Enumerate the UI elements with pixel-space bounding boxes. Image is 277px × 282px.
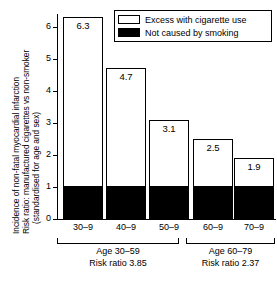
group-age-label: Age 60–79 (186, 246, 275, 258)
legend-item-excess: Excess with cigarette use (118, 13, 268, 26)
bar: 3.1 (149, 120, 189, 219)
group-risk-ratio-label: Risk ratio 2.37 (186, 258, 275, 270)
bar: 4.7 (106, 68, 146, 219)
y-tick-label: 0 (40, 214, 51, 223)
legend-swatch-base-icon (118, 28, 140, 37)
chart-legend: Excess with cigarette use Not caused by … (114, 10, 272, 42)
y-tick-label-box: 1 (40, 182, 51, 191)
y-tick-label-box: 4 (40, 86, 51, 95)
y-tick-mark (53, 187, 57, 188)
bar-value-label: 1.9 (235, 162, 273, 172)
y-tick-label-box: 5 (40, 54, 51, 63)
y-tick-mark (53, 91, 57, 92)
y-tick-label: 5 (40, 54, 51, 63)
bar-value-label: 6.3 (64, 21, 102, 31)
legend-label-base: Not caused by smoking (145, 28, 239, 38)
group-bracket (57, 238, 179, 244)
y-tick-label: 2 (40, 150, 51, 159)
y-tick-label-box: 0 (40, 214, 51, 223)
group-risk-ratio-label: Risk ratio 3.85 (57, 258, 179, 270)
bar-value-label: 3.1 (150, 124, 188, 134)
group-age-label: Age 30–59 (57, 246, 179, 258)
legend-swatch-excess-icon (118, 15, 140, 24)
y-axis-line (57, 14, 58, 220)
chart-figure: Incidence of non-fatal myocardial infarc… (0, 0, 277, 282)
bar-segment-not-caused-by-smoking (150, 186, 188, 218)
y-tick-label: 4 (40, 86, 51, 95)
y-tick-label-box: 3 (40, 118, 51, 127)
bar-segment-not-caused-by-smoking (194, 186, 232, 218)
y-axis-title-line-3: (standardised for age and sex) (31, 112, 41, 224)
y-tick-label-box: 6 (40, 22, 51, 31)
bar-value-label: 4.7 (107, 72, 145, 82)
group-caption: Age 30–59Risk ratio 3.85 (57, 246, 179, 269)
y-tick-label: 6 (40, 22, 51, 31)
y-axis-title-line-2: Risk ratio: manufactured cigarettes vs n… (21, 50, 31, 234)
bar-value-label: 2.5 (194, 143, 232, 153)
y-tick-label: 3 (40, 118, 51, 127)
bar: 1.9 (234, 158, 274, 219)
legend-label-excess: Excess with cigarette use (145, 15, 247, 25)
bar: 6.3 (63, 17, 103, 219)
y-tick-mark (53, 155, 57, 156)
group-caption: Age 60–79Risk ratio 2.37 (186, 246, 275, 269)
bar-segment-not-caused-by-smoking (64, 186, 102, 218)
x-tick-label: 70–9 (228, 222, 277, 233)
group-bracket (186, 238, 275, 244)
y-tick-label: 1 (40, 182, 51, 191)
legend-item-base: Not caused by smoking (118, 26, 268, 39)
bar-segment-not-caused-by-smoking (107, 186, 145, 218)
y-tick-mark (53, 219, 57, 220)
y-tick-mark (53, 123, 57, 124)
y-tick-mark (53, 59, 57, 60)
y-axis-title-line-1: Incidence of non-fatal myocardial infarc… (11, 77, 21, 234)
bar-segment-not-caused-by-smoking (235, 186, 273, 218)
y-axis-title: Incidence of non-fatal myocardial infarc… (0, 0, 38, 240)
y-tick-label-box: 2 (40, 150, 51, 159)
y-tick-mark (53, 27, 57, 28)
x-axis-line (57, 219, 276, 220)
bar: 2.5 (193, 139, 233, 219)
